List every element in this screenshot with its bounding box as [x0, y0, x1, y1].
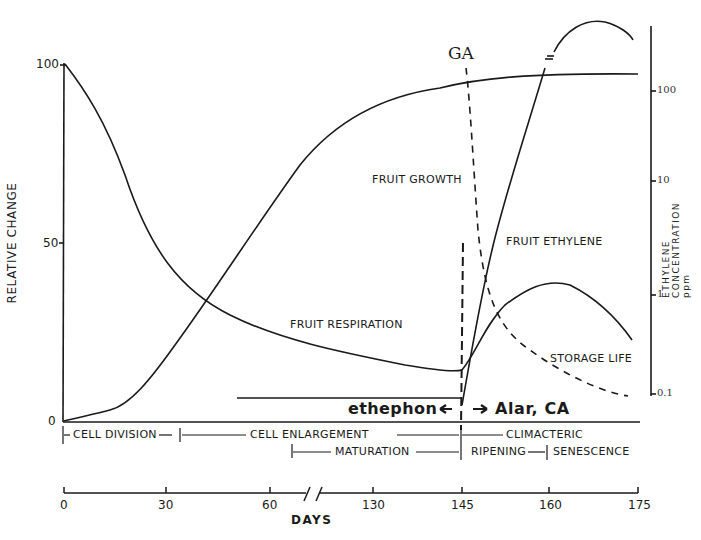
phase-ripening: RIPENING	[469, 445, 528, 458]
y-tick-50: 50	[43, 236, 58, 250]
label-fruit-growth: FRUIT GROWTH	[372, 173, 462, 186]
x-axis-label: DAYS	[291, 513, 332, 527]
y2-tick-0-1: 0.1	[657, 387, 673, 398]
x-tick-0: 0	[60, 498, 68, 512]
alar-arrow	[473, 405, 487, 413]
y2-tick-10: 10	[657, 174, 670, 185]
ethephon-arrow	[440, 405, 452, 413]
x-tick-175: 175	[628, 498, 651, 512]
label-storage-life: STORAGE LIFE	[550, 352, 632, 365]
phase-maturation: MATURATION	[333, 445, 412, 458]
label-fruit-ethylene: FRUIT ETHYLENE	[506, 235, 603, 248]
annotation-ga: GA	[448, 43, 474, 63]
phase-senescence: SENESCENCE	[551, 445, 632, 458]
y-tick-100: 100	[36, 57, 59, 71]
x-tick-30: 30	[158, 498, 173, 512]
x-tick-60: 60	[262, 498, 277, 512]
x-tick-160: 160	[539, 498, 562, 512]
label-ethephon: ethephon	[348, 399, 437, 418]
y2-tick-1: 1	[657, 288, 663, 299]
phase-climacteric: CLIMACTERIC	[504, 428, 585, 441]
y-axis-label: RELATIVE CHANGE	[5, 182, 19, 303]
y-tick-0: 0	[48, 414, 56, 428]
series-storage-life	[466, 68, 628, 396]
phase-cell-division: CELL DIVISION	[71, 428, 159, 441]
label-alar-ca: Alar, CA	[495, 399, 570, 418]
x-tick-145: 145	[451, 498, 474, 512]
y2-axis-label: ETHYLENE CONCENTRATION ppm	[661, 202, 691, 298]
y2-tick-100: 100	[657, 84, 676, 95]
label-fruit-respiration: FRUIT RESPIRATION	[290, 318, 403, 331]
chart-canvas	[0, 0, 701, 540]
phase-cell-enlargement: CELL ENLARGEMENT	[248, 428, 371, 441]
x-tick-130: 130	[362, 498, 385, 512]
